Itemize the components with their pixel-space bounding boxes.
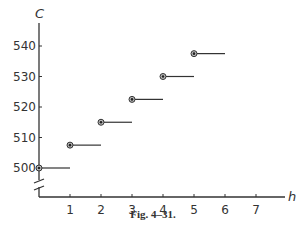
data-point-center	[38, 167, 41, 170]
figure-caption: Fig. 4–31.	[0, 208, 306, 220]
y-tick-label: 530	[13, 70, 36, 84]
x-axis-label: h	[288, 189, 296, 204]
data-point-center	[162, 75, 165, 78]
y-tick-label: 540	[13, 39, 36, 53]
y-tick-label: 510	[13, 131, 36, 145]
y-tick-label: 500	[13, 161, 36, 175]
y-axis-label: C	[35, 6, 45, 21]
data-point-center	[100, 121, 103, 124]
data-point-center	[131, 98, 134, 101]
data-point-center	[193, 52, 196, 55]
data-point-center	[69, 144, 72, 147]
y-tick-label: 520	[13, 100, 36, 114]
